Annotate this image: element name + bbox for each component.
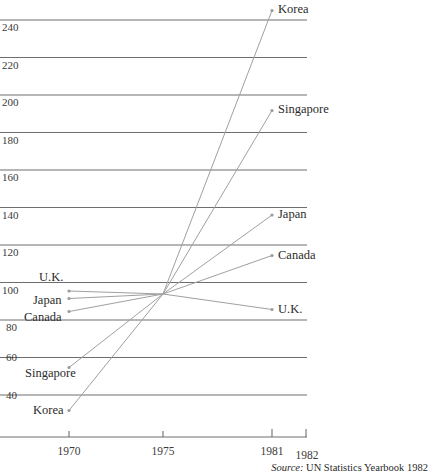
series-markers [67, 9, 273, 412]
marker-uk-1970 [67, 289, 70, 292]
y-tick-label-100: 100 [2, 285, 19, 296]
y-tick-label-80: 80 [6, 322, 17, 333]
series-label-right-canada: Canada [278, 249, 315, 262]
series-line-canada [69, 256, 272, 312]
series-lines [69, 11, 272, 411]
marker-canada-1981 [270, 254, 273, 257]
marker-japan-1970 [67, 297, 70, 300]
marker-canada-1970 [67, 310, 70, 313]
x-axis [0, 429, 307, 437]
series-label-right-singapore: Singapore [278, 103, 329, 116]
series-label-right-uk: U.K. [278, 303, 302, 316]
x-tick-label-1975: 1975 [141, 446, 185, 457]
series-line-uk [69, 291, 272, 310]
series-line-japan [69, 215, 272, 299]
source-note: Source: UN Statistics Yearbook 1982 [271, 462, 428, 473]
y-tick-label-140: 140 [2, 210, 19, 221]
y-tick-label-120: 120 [2, 247, 19, 258]
marker-uk-1981 [270, 308, 273, 311]
source-prefix: Source: [271, 462, 303, 473]
x-tick-label-1982: 1982 [285, 450, 329, 461]
series-line-singapore [69, 111, 272, 368]
series-label-left-uk: U.K. [39, 271, 63, 284]
marker-korea-1970 [67, 409, 70, 412]
marker-japan-1981 [270, 213, 273, 216]
series-label-right-japan: Japan [278, 208, 306, 221]
y-tick-label-240: 240 [2, 22, 19, 33]
chart-canvas [0, 0, 431, 475]
gridlines [0, 20, 307, 395]
y-tick-label-40: 40 [6, 390, 17, 401]
slope-chart: 240 220 200 180 160 140 120 100 80 60 40… [0, 0, 431, 475]
y-tick-label-180: 180 [2, 135, 19, 146]
y-tick-label-200: 200 [2, 97, 19, 108]
series-label-left-singapore: Singapore [25, 367, 76, 380]
y-tick-label-220: 220 [2, 60, 19, 71]
series-label-left-canada: Canada [24, 311, 61, 324]
source-text: UN Statistics Yearbook 1982 [306, 462, 428, 473]
y-tick-label-60: 60 [6, 352, 17, 363]
series-label-left-korea: Korea [33, 404, 64, 417]
x-tick-label-1970: 1970 [47, 446, 91, 457]
series-label-right-korea: Korea [278, 3, 309, 16]
marker-singapore-1981 [270, 109, 273, 112]
marker-korea-1981 [270, 9, 273, 12]
y-tick-label-160: 160 [2, 172, 19, 183]
series-line-korea [69, 11, 272, 411]
series-label-left-japan: Japan [33, 294, 61, 307]
